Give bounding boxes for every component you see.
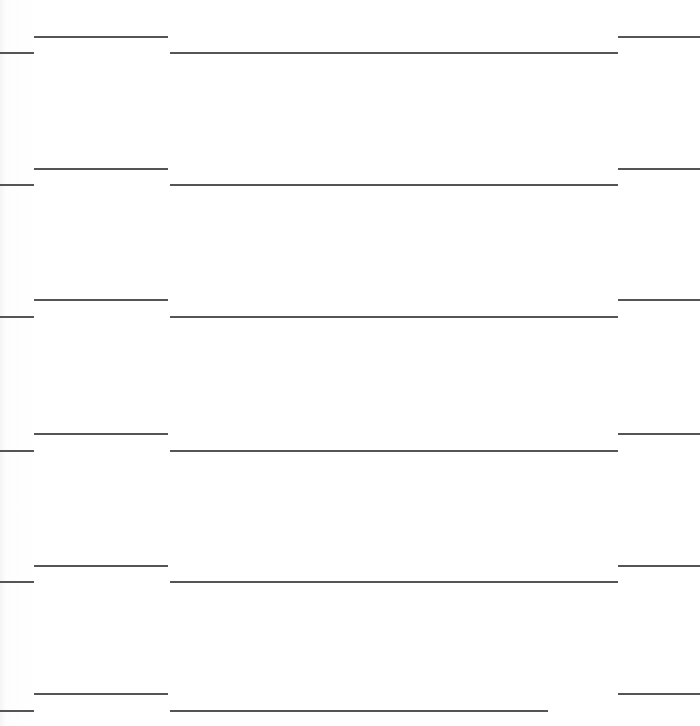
blank-ruled-page <box>0 0 700 726</box>
rule-upper-left-6 <box>34 693 168 695</box>
rule-upper-right-3 <box>618 299 700 301</box>
rule-upper-right-5 <box>618 565 700 567</box>
rule-upper-right-1 <box>618 36 700 38</box>
rule-upper-left-5 <box>34 565 168 567</box>
rule-lower-left-1 <box>0 52 34 54</box>
rule-lower-left-2 <box>0 184 34 186</box>
rule-upper-left-4 <box>34 433 168 435</box>
rule-lower-center-6 <box>170 710 548 712</box>
rule-lower-center-2 <box>170 184 618 186</box>
rule-upper-left-1 <box>34 36 168 38</box>
rule-lower-left-6 <box>0 710 34 712</box>
rule-upper-right-4 <box>618 433 700 435</box>
rule-lower-center-5 <box>170 581 618 583</box>
rule-upper-right-2 <box>618 168 700 170</box>
rule-upper-right-6 <box>618 693 700 695</box>
rule-lower-left-4 <box>0 450 34 452</box>
rule-lower-left-5 <box>0 581 34 583</box>
rule-lower-center-4 <box>170 450 618 452</box>
rule-upper-left-2 <box>34 168 168 170</box>
rule-lower-center-1 <box>170 52 618 54</box>
rule-lower-center-3 <box>170 316 618 318</box>
rule-upper-left-3 <box>34 299 168 301</box>
rule-lower-left-3 <box>0 316 34 318</box>
